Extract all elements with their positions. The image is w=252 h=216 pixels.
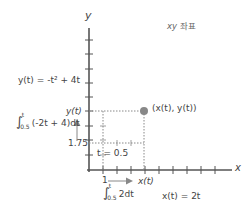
point-label: (x(t), y(t)) bbox=[152, 104, 197, 113]
y-axis-label: y bbox=[85, 10, 92, 21]
guide-lines bbox=[89, 111, 144, 170]
upper-bound: t bbox=[109, 182, 111, 189]
arrow-right-icon bbox=[126, 178, 133, 185]
x-equation: x(t) = 2t bbox=[162, 192, 200, 201]
x-integral: ∫t0.52dt bbox=[103, 186, 137, 199]
y-start-label: 1.75 bbox=[68, 139, 88, 148]
integrand: (-2t + 4)dt bbox=[32, 118, 80, 128]
lower-bound: 0.5 bbox=[20, 123, 30, 130]
diagram-canvas bbox=[0, 0, 252, 216]
x-start-label: 1 bbox=[102, 176, 108, 185]
y-integral: ∫t0.5(-2t + 4)dt bbox=[16, 115, 82, 128]
integrand: 2dt bbox=[119, 189, 134, 199]
point-marker bbox=[140, 107, 148, 115]
x-axis-label: x bbox=[235, 163, 241, 173]
upper-bound: t bbox=[22, 111, 24, 118]
t-label: t = 0.5 bbox=[97, 149, 128, 158]
y-equation: y(t) = -t² + 4t bbox=[18, 76, 80, 85]
lower-bound: 0.5 bbox=[107, 194, 117, 201]
x-tick-label: x(t) bbox=[138, 177, 154, 186]
diagram-title: xy 좌표 bbox=[167, 22, 196, 31]
